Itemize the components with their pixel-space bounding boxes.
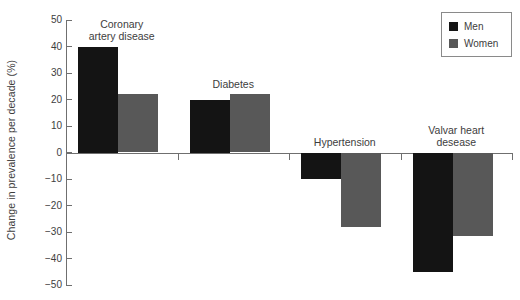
bar-men bbox=[78, 47, 118, 153]
y-tick: 10 bbox=[24, 120, 74, 132]
y-tick-mark bbox=[66, 205, 72, 206]
y-tick-mark bbox=[66, 179, 72, 180]
y-tick: −20 bbox=[24, 200, 74, 212]
group-label: Coronary artery disease bbox=[66, 18, 178, 43]
y-tick-label: 10 bbox=[28, 120, 62, 132]
y-axis-title: Change in prevalence per decade (%) bbox=[2, 0, 20, 300]
y-tick: −30 bbox=[24, 226, 74, 238]
y-tick-label: −40 bbox=[28, 253, 62, 265]
y-tick-label: −50 bbox=[28, 279, 62, 291]
y-tick-label: −20 bbox=[28, 200, 62, 212]
legend-swatch-men-icon bbox=[449, 22, 458, 31]
group-label: Valvar heart desease bbox=[401, 124, 513, 149]
y-tick-label: −30 bbox=[28, 226, 62, 238]
legend-label-women: Women bbox=[464, 39, 498, 49]
bar-chart-figure: Change in prevalence per decade (%) 5040… bbox=[0, 0, 520, 300]
legend-swatch-women-icon bbox=[449, 39, 458, 48]
group-separator-tick bbox=[512, 153, 513, 160]
y-tick-mark bbox=[66, 126, 72, 127]
plot-area: 50403020100−10−20−30−40−50 Coronary arte… bbox=[66, 20, 512, 285]
y-tick-mark bbox=[66, 46, 72, 47]
y-tick-mark bbox=[66, 99, 72, 100]
y-tick-label: 30 bbox=[28, 67, 62, 79]
y-tick-label: 0 bbox=[28, 147, 62, 159]
y-tick-label: 20 bbox=[28, 94, 62, 106]
bar-women bbox=[453, 153, 493, 236]
y-tick-mark bbox=[66, 285, 72, 286]
y-tick-label: 40 bbox=[28, 41, 62, 53]
group-separator-tick bbox=[178, 153, 179, 160]
y-tick-mark bbox=[66, 258, 72, 259]
group-separator-tick bbox=[401, 153, 402, 160]
bar-women bbox=[341, 153, 381, 227]
group-label: Diabetes bbox=[178, 78, 290, 91]
bar-women bbox=[118, 94, 158, 152]
y-tick-label: 50 bbox=[28, 14, 62, 26]
y-tick-mark bbox=[66, 232, 72, 233]
y-tick: 20 bbox=[24, 94, 74, 106]
bar-men bbox=[301, 153, 341, 180]
bar-men bbox=[413, 153, 453, 272]
bar-women bbox=[230, 94, 270, 152]
y-tick-label: −10 bbox=[28, 173, 62, 185]
group-label: Hypertension bbox=[289, 136, 401, 149]
legend-label-men: Men bbox=[464, 22, 483, 32]
y-tick: −40 bbox=[24, 253, 74, 265]
y-tick: −10 bbox=[24, 173, 74, 185]
bar-men bbox=[190, 100, 230, 153]
y-tick: 30 bbox=[24, 67, 74, 79]
y-tick-mark bbox=[66, 73, 72, 74]
legend-item-women: Women bbox=[449, 35, 511, 52]
chart-legend: Men Women bbox=[441, 12, 512, 57]
legend-item-men: Men bbox=[449, 18, 511, 35]
group-separator-tick bbox=[289, 153, 290, 160]
y-tick: −50 bbox=[24, 279, 74, 291]
